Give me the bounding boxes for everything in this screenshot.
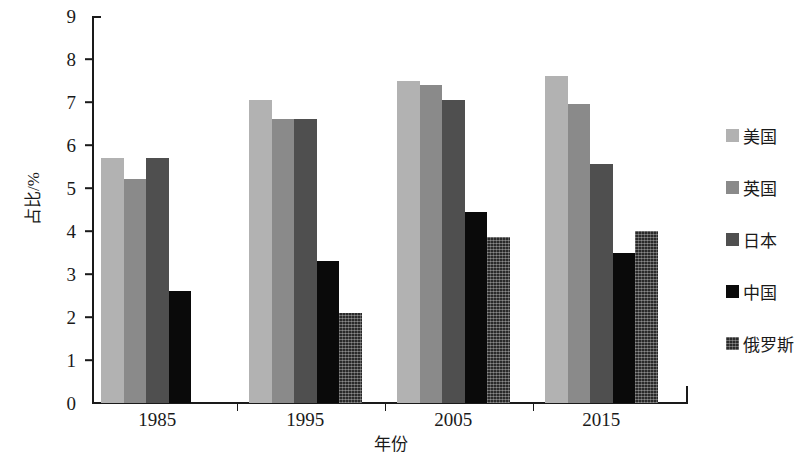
y-tick-label: 3 (67, 265, 77, 284)
bar-group (101, 16, 214, 403)
bar-usa-1995 (249, 100, 272, 403)
bar-group (545, 16, 658, 403)
x-tick-label: 1985 (97, 409, 217, 431)
bar-russia-2015 (635, 231, 658, 403)
bar-japan-2005 (442, 100, 465, 403)
legend-item-japan: 日本 (726, 230, 811, 248)
bar-uk-1985 (124, 179, 147, 403)
x-tick-mark (385, 402, 387, 411)
y-tick-label: 1 (67, 351, 77, 370)
legend-label: 俄罗斯 (743, 331, 794, 356)
x-tick-mark (533, 402, 535, 411)
x-tick-label: 2015 (541, 409, 661, 431)
y-tick-label: 0 (67, 394, 77, 413)
x-tick-mark (237, 402, 239, 411)
bar-china-2005 (465, 212, 488, 403)
bar-china-1995 (317, 261, 340, 403)
bar-group (397, 16, 510, 403)
legend-swatch-icon (726, 285, 739, 298)
bar-japan-1995 (294, 119, 317, 403)
bar-china-2015 (613, 253, 636, 404)
bar-china-1985 (169, 291, 192, 403)
y-tick-label: 2 (67, 308, 77, 327)
y-tick-label: 8 (67, 50, 77, 69)
legend-item-usa: 美国 (726, 126, 811, 144)
legend-item-russia: 俄罗斯 (726, 334, 811, 352)
legend-swatch-icon (726, 337, 739, 350)
legend: 美国英国日本中国俄罗斯 (726, 126, 811, 386)
plot-area (93, 16, 688, 403)
bar-uk-2015 (568, 104, 591, 403)
legend-label: 美国 (743, 123, 777, 148)
legend-label: 中国 (743, 279, 777, 304)
bar-group (249, 16, 362, 403)
y-axis-ticks: 0123456789 (0, 0, 92, 448)
bar-japan-2015 (590, 164, 613, 403)
bar-uk-1995 (272, 119, 295, 403)
bar-usa-2005 (397, 81, 420, 404)
y-tick-label: 9 (67, 7, 77, 26)
bar-russia-2005 (487, 237, 510, 403)
x-tick-label: 2005 (393, 409, 513, 431)
bar-russia-1995 (339, 313, 362, 403)
y-tick-label: 4 (67, 222, 77, 241)
legend-swatch-icon (726, 233, 739, 246)
x-axis-title: 年份 (93, 430, 688, 455)
bar-japan-1985 (146, 158, 169, 403)
legend-swatch-icon (726, 181, 739, 194)
legend-item-uk: 英国 (726, 178, 811, 196)
y-tick-label: 6 (67, 136, 77, 155)
bar-usa-1985 (101, 158, 124, 403)
y-tick-label: 7 (67, 93, 77, 112)
y-tick-label: 5 (67, 179, 77, 198)
bar-uk-2005 (420, 85, 443, 403)
legend-swatch-icon (726, 129, 739, 142)
legend-item-china: 中国 (726, 282, 811, 300)
legend-label: 日本 (743, 227, 777, 252)
bar-usa-2015 (545, 76, 568, 403)
legend-label: 英国 (743, 175, 777, 200)
x-tick-label: 1995 (245, 409, 365, 431)
